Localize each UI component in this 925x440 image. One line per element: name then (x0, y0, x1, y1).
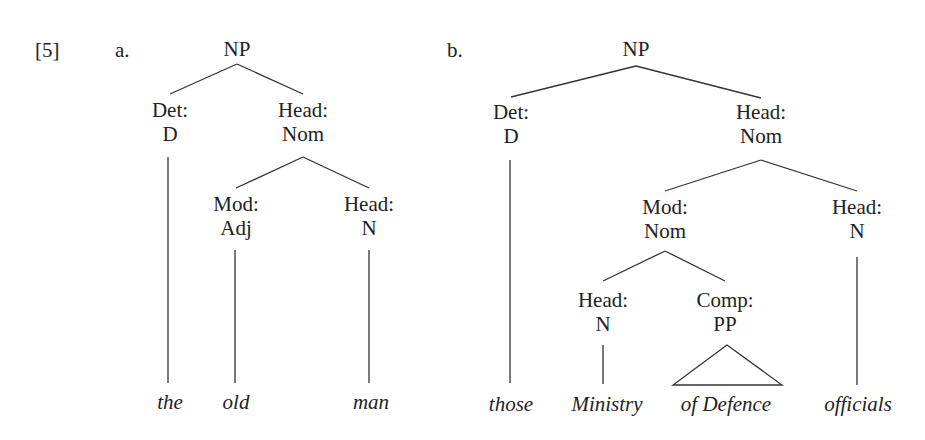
tree-a-mod-node: Mod: Adj (213, 192, 259, 240)
pp-triangle (673, 345, 782, 385)
tree-b-label: b. (447, 38, 463, 62)
tree-b-word-3: of Defence (681, 392, 771, 416)
function-label: Head: (832, 195, 882, 219)
function-label: Head: (578, 288, 628, 312)
tree-b-word-1: those (489, 392, 533, 416)
category-label: Nom (642, 219, 688, 243)
category-label: N (578, 312, 628, 336)
category-label: N (344, 216, 394, 240)
category-label: D (152, 122, 188, 146)
category-label: PP (696, 312, 753, 336)
function-label: Det: (493, 100, 529, 124)
tree-a-word-2: old (223, 390, 250, 414)
tree-edges (0, 0, 925, 440)
category-label: Nom (736, 124, 786, 148)
function-label: Comp: (696, 288, 753, 312)
category-label: Nom (278, 122, 328, 146)
category-label: D (493, 124, 529, 148)
function-label: Mod: (642, 195, 688, 219)
tree-a-label: a. (115, 38, 130, 62)
tree-b-det-node: Det: D (493, 100, 529, 148)
tree-b-inner-head-node: Head: N (578, 288, 628, 336)
tree-b-root-node: NP (623, 37, 650, 61)
tree-b-mod-node: Mod: Nom (642, 195, 688, 243)
category-label: Adj (213, 216, 259, 240)
tree-a-word-3: man (353, 390, 389, 414)
tree-a-root-node: NP (224, 37, 251, 61)
tree-b-word-4: officials (824, 392, 892, 416)
function-label: Head: (344, 192, 394, 216)
tree-b-word-2: Ministry (571, 392, 642, 416)
tree-b-comp-node: Comp: PP (696, 288, 753, 336)
tree-a-det-node: Det: D (152, 98, 188, 146)
tree-a-head-node: Head: Nom (278, 98, 328, 146)
tree-b-head2-node: Head: N (832, 195, 882, 243)
category-label: N (832, 219, 882, 243)
function-label: Head: (736, 100, 786, 124)
function-label: Det: (152, 98, 188, 122)
tree-b-head-node: Head: Nom (736, 100, 786, 148)
example-number: [5] (35, 38, 60, 62)
tree-a-edges (168, 64, 369, 383)
function-label: Head: (278, 98, 328, 122)
function-label: Mod: (213, 192, 259, 216)
tree-a-head2-node: Head: N (344, 192, 394, 240)
tree-a-word-1: the (157, 390, 183, 414)
